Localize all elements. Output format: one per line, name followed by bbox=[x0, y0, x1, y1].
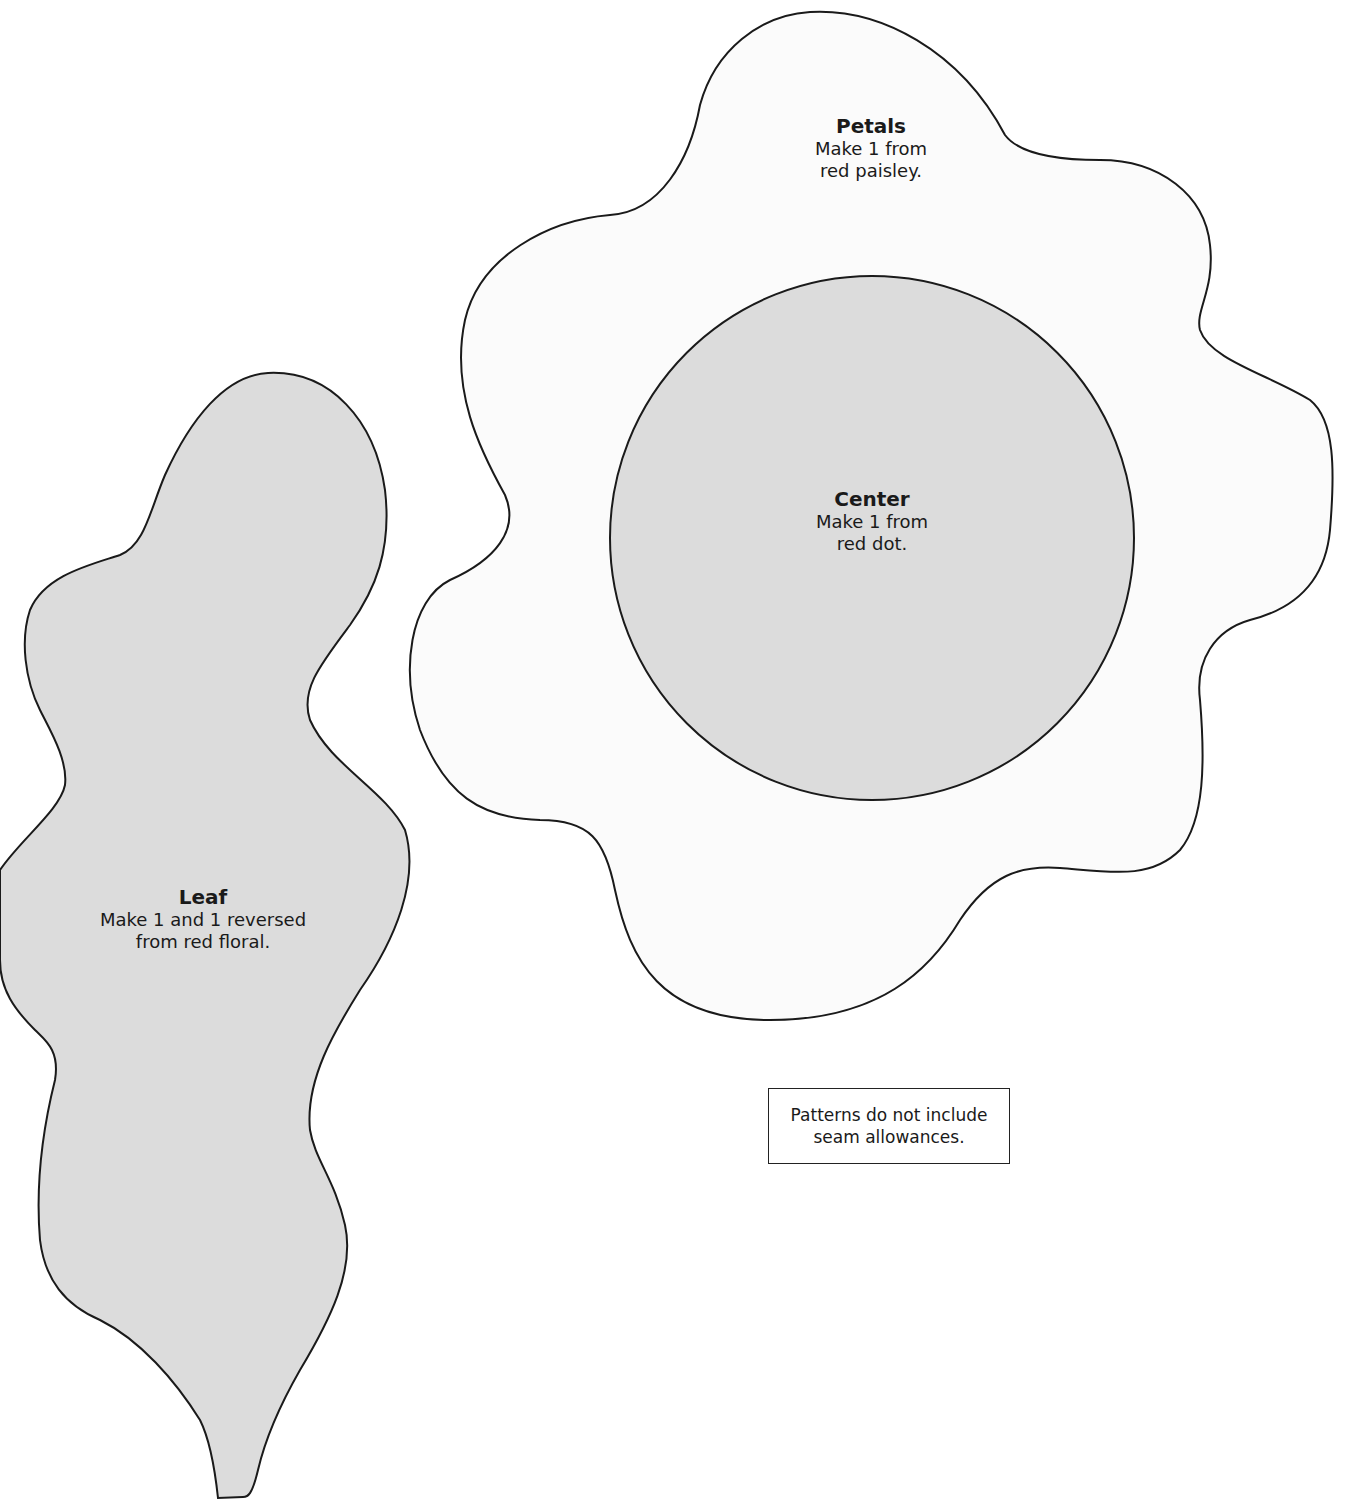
petals-label: Petals Make 1 from red paisley. bbox=[815, 114, 927, 182]
center-label: Center Make 1 from red dot. bbox=[816, 487, 928, 555]
seam-allowance-note: Patterns do not include seam allowances. bbox=[768, 1088, 1010, 1164]
leaf-label: Leaf Make 1 and 1 reversed from red flor… bbox=[100, 885, 306, 953]
petals-title: Petals bbox=[815, 114, 927, 138]
petals-instruction-line2: red paisley. bbox=[815, 160, 927, 182]
leaf-instruction-line2: from red floral. bbox=[100, 931, 306, 953]
leaf-title: Leaf bbox=[100, 885, 306, 909]
center-instruction-line1: Make 1 from bbox=[816, 511, 928, 533]
note-line1: Patterns do not include bbox=[791, 1104, 988, 1126]
leaf-instruction-line1: Make 1 and 1 reversed bbox=[100, 909, 306, 931]
petals-instruction-line1: Make 1 from bbox=[815, 138, 927, 160]
center-title: Center bbox=[816, 487, 928, 511]
note-line2: seam allowances. bbox=[813, 1126, 964, 1148]
center-instruction-line2: red dot. bbox=[816, 533, 928, 555]
pattern-shapes bbox=[0, 0, 1367, 1502]
